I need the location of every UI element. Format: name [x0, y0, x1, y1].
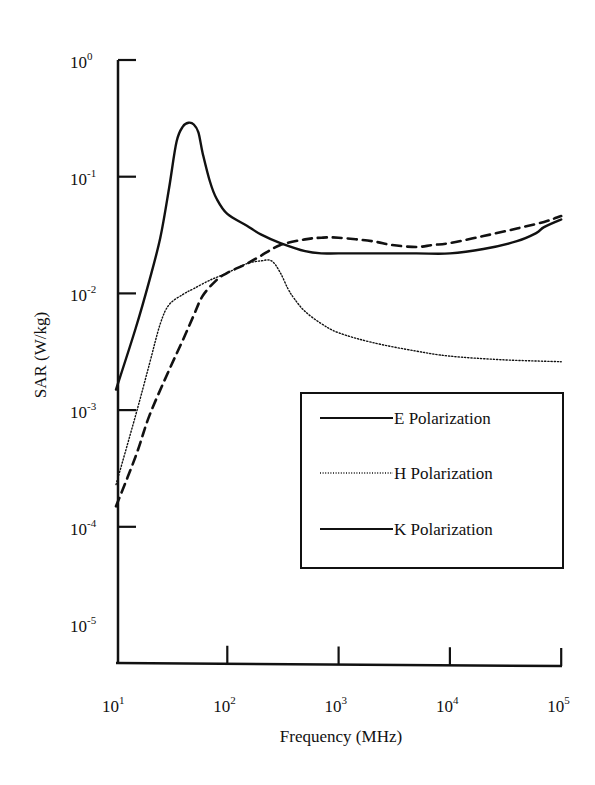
x-tick-label: 105	[547, 694, 570, 716]
legend-label: E Polarization	[394, 409, 491, 428]
y-tick-label: 10-2	[70, 283, 96, 305]
x-tick-label: 104	[436, 694, 459, 716]
y-ticks: 10010-110-210-310-410-5	[70, 50, 136, 636]
x-ticks: 101102103104105	[102, 646, 570, 716]
y-axis-title: SAR (W/kg)	[31, 312, 50, 398]
y-tick-label: 10-3	[70, 400, 97, 422]
series-line-e-polarization	[116, 123, 561, 390]
legend-label: H Polarization	[394, 464, 493, 483]
x-tick-label: 103	[325, 694, 348, 716]
x-tick-label: 102	[213, 694, 236, 716]
y-tick-label: 10-4	[70, 517, 97, 539]
x-tick-label: 101	[102, 694, 125, 716]
legend-label: K Polarization	[394, 520, 493, 539]
y-tick-label: 100	[70, 50, 93, 72]
y-tick-label: 10-5	[70, 614, 97, 636]
y-tick-label: 10-1	[70, 167, 96, 189]
x-axis-title: Frequency (MHz)	[280, 727, 402, 746]
sar-frequency-chart: 10010-110-210-310-410-5 101102103104105 …	[0, 0, 595, 785]
legend: E PolarizationH PolarizationK Polarizati…	[301, 393, 563, 568]
